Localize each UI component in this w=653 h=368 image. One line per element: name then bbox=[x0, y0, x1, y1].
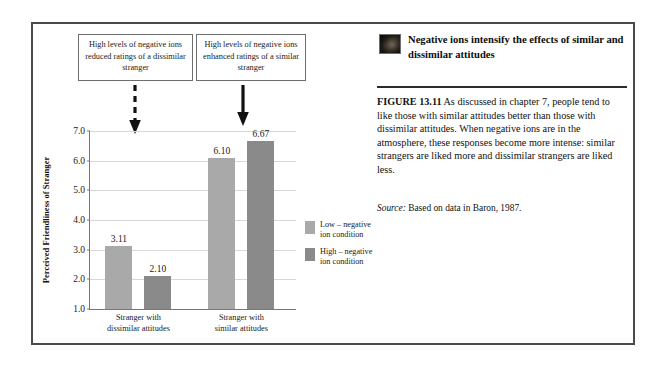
legend-item-low: Low – negative ion condition bbox=[305, 220, 380, 240]
callout-right-text: High levels of negative ions enhanced ra… bbox=[203, 40, 299, 72]
chart-legend: Low – negative ion condition High – nega… bbox=[305, 220, 380, 274]
callout-box-right: High levels of negative ions enhanced ra… bbox=[196, 34, 306, 81]
y-axis-title: Perceived Friendliness of Stranger bbox=[39, 131, 53, 309]
figure-caption-text: As discussed in chapter 7, people tend t… bbox=[377, 96, 615, 175]
y-tick-label: 3.0 bbox=[73, 245, 85, 255]
bar-value-label: 2.10 bbox=[150, 264, 167, 274]
y-tick-label: 2.0 bbox=[73, 274, 85, 284]
legend-label-high-line1: High – negative bbox=[320, 247, 372, 257]
source-text: Based on data in Baron, 1987. bbox=[408, 203, 521, 213]
legend-label-high: High – negative ion condition bbox=[320, 247, 372, 267]
solid-down-arrow-icon bbox=[236, 84, 250, 132]
y-tick-mark bbox=[87, 249, 90, 250]
legend-label-low-line1: Low – negative bbox=[320, 220, 371, 230]
source-label: Source: bbox=[377, 203, 406, 213]
legend-label-low: Low – negative ion condition bbox=[320, 220, 371, 240]
y-axis-title-text: Perceived Friendliness of Stranger bbox=[41, 157, 51, 284]
legend-label-low-line2: ion condition bbox=[320, 230, 371, 240]
bar-high-similar: 6.67 bbox=[247, 141, 274, 309]
bar-high-dissimilar: 2.10 bbox=[144, 276, 171, 309]
photo-thumbnail-icon bbox=[379, 34, 401, 54]
figure-heading-text: Negative ions intensify the effects of s… bbox=[377, 32, 629, 62]
y-tick-mark bbox=[87, 279, 90, 280]
y-tick-mark bbox=[87, 220, 90, 221]
bar-value-label: 3.11 bbox=[111, 234, 127, 244]
callout-left-text: High levels of negative ions reduced rat… bbox=[85, 40, 185, 72]
y-tick-label: 7.0 bbox=[73, 126, 85, 136]
legend-swatch-low bbox=[305, 221, 315, 234]
figure-frame: High levels of negative ions reduced rat… bbox=[31, 22, 635, 345]
bar-low-dissimilar: 3.11 bbox=[105, 246, 132, 309]
legend-label-high-line2: ion condition bbox=[320, 257, 372, 267]
x-category-label-line: similar attitudes bbox=[181, 324, 301, 335]
figure-caption: FIGURE 13.11 As discussed in chapter 7, … bbox=[377, 95, 627, 177]
x-category-label-line: Stranger with bbox=[181, 313, 301, 324]
chart-panel: High levels of negative ions reduced rat… bbox=[33, 24, 363, 345]
bar-value-label: 6.10 bbox=[214, 146, 231, 156]
caption-panel: Negative ions intensify the effects of s… bbox=[377, 24, 633, 345]
callout-box-left: High levels of negative ions reduced rat… bbox=[78, 34, 193, 81]
figure-heading-block: Negative ions intensify the effects of s… bbox=[377, 32, 629, 62]
bar-value-label: 6.67 bbox=[253, 129, 270, 139]
figure-number-label: FIGURE 13.11 bbox=[377, 96, 442, 107]
y-tick-mark bbox=[87, 131, 90, 132]
y-tick-mark bbox=[87, 309, 90, 310]
x-category-label: Stranger withsimilar attitudes bbox=[181, 313, 301, 334]
legend-swatch-high bbox=[305, 248, 315, 261]
figure-source: Source: Based on data in Baron, 1987. bbox=[377, 202, 627, 214]
heading-divider bbox=[377, 86, 627, 88]
y-tick-mark bbox=[87, 190, 90, 191]
bar-low-similar: 6.10 bbox=[208, 158, 235, 309]
plot-area: 1.02.03.04.05.06.07.03.112.10Stranger wi… bbox=[90, 131, 296, 309]
y-tick-label: 5.0 bbox=[73, 185, 85, 195]
legend-item-high: High – negative ion condition bbox=[305, 247, 380, 267]
y-tick-label: 4.0 bbox=[73, 215, 85, 225]
y-tick-mark bbox=[87, 160, 90, 161]
y-tick-label: 6.0 bbox=[73, 156, 85, 166]
x-axis-line bbox=[89, 309, 296, 310]
